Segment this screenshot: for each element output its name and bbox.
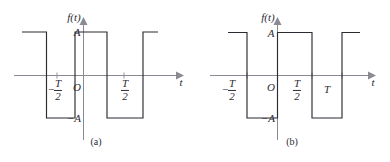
panel-b-t-axis-label: t: [371, 77, 374, 88]
panel-b-denominator-2: 2: [293, 91, 301, 103]
panel-b-numerator: T: [228, 78, 236, 91]
panel-b-f-axis-label: f(t): [261, 12, 274, 23]
panel-b-minus-sign: −: [222, 84, 228, 96]
panel-b-period-label: T: [324, 84, 330, 95]
panel-b-amplitude-label: A: [268, 28, 275, 39]
panel-b-caption: (b): [286, 136, 298, 147]
panel-b-numerator-2: T: [293, 78, 301, 91]
panel-b-negative-amplitude-label: −A: [261, 113, 275, 124]
figure-root: f(t) t A −A O − T 2 T 2 (a) f(t) t A −A …: [0, 0, 390, 162]
panel-b-tick-label-neg-half-T: − T 2: [228, 78, 236, 102]
panel-b-graphics: [0, 0, 390, 162]
panel-b-denominator: 2: [228, 91, 236, 103]
panel-b-tick-label-pos-half-T: T 2: [293, 78, 301, 102]
panel-b-origin-label: O: [267, 82, 275, 93]
